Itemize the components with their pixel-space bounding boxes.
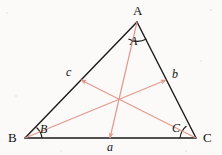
median-group bbox=[25, 22, 196, 138]
side-label-a: a bbox=[107, 141, 113, 153]
paper-speck bbox=[185, 150, 187, 152]
paper-speck bbox=[60, 150, 62, 152]
paper-speck bbox=[15, 95, 17, 97]
side-label-c: c bbox=[66, 66, 71, 78]
angle-arc-group bbox=[37, 39, 187, 138]
vertex-label-a: A bbox=[133, 4, 142, 17]
paper-speck bbox=[200, 60, 202, 62]
paper-speck bbox=[210, 9, 212, 11]
median-label-a: A bbox=[130, 35, 137, 47]
side-label-b: b bbox=[172, 68, 178, 80]
vertex-label-c: C bbox=[203, 131, 212, 144]
vertex-label-b: B bbox=[8, 131, 17, 144]
triangle-diagram-svg bbox=[0, 0, 222, 155]
triangle-outline bbox=[25, 22, 196, 138]
geometry-figure-canvas: A B C a b c A B C bbox=[0, 0, 222, 155]
paper-speck bbox=[6, 12, 8, 14]
median-label-b: B bbox=[40, 123, 47, 135]
median-label-c: C bbox=[172, 122, 180, 134]
